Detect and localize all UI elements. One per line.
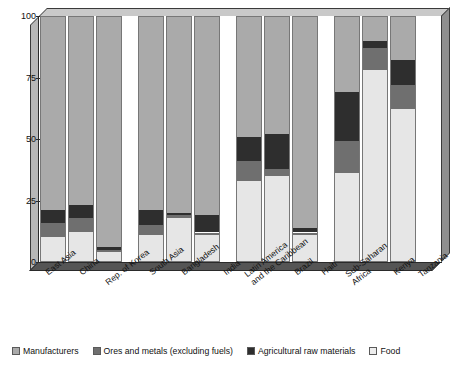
bar-segment-south-asia-agri <box>138 210 164 225</box>
bar-china <box>68 16 94 262</box>
bar-sub-saharan-africa <box>334 16 360 262</box>
bar-segment-sub-saharan-africa-manufacturers <box>334 16 360 92</box>
legend-swatch-icon <box>369 347 377 355</box>
x-axis-label-8: Haiti <box>320 260 339 278</box>
stacked-bar-chart: 1007550250 East AsiaChinaRep. of KoreaSo… <box>0 0 464 365</box>
y-axis-tick-100: 100 <box>0 16 36 25</box>
legend-item-manufacturers[interactable]: Manufacturers <box>12 346 79 356</box>
bar-segment-brazil-agri <box>264 134 290 168</box>
legend-label: Agricultural raw materials <box>258 346 356 356</box>
bar-segment-brazil-ores <box>264 169 290 176</box>
y-axis-tick-25: 25 <box>0 201 36 210</box>
legend-label: Ores and metals (excluding fuels) <box>104 346 233 356</box>
chart-legend: ManufacturersOres and metals (excluding … <box>12 342 464 360</box>
bar-segment-india-manufacturers <box>194 16 220 215</box>
bar-segment-rep-of-korea-manufacturers <box>96 16 122 247</box>
bar-bangladesh <box>166 16 192 262</box>
legend-item-food[interactable]: Food <box>369 346 400 356</box>
bar-segment-latin-america-agri <box>236 137 262 162</box>
bar-east-asia <box>40 16 66 262</box>
bar-segment-brazil-manufacturers <box>264 16 290 134</box>
bar-segment-east-asia-agri <box>40 210 66 222</box>
x-axis: East AsiaChinaRep. of KoreaSouth AsiaBan… <box>0 262 464 337</box>
bar-segment-bangladesh-agri <box>166 213 192 215</box>
bar-segment-china-manufacturers <box>68 16 94 205</box>
legend-item-ores[interactable]: Ores and metals (excluding fuels) <box>93 346 233 356</box>
x-axis-label-line: India <box>222 259 243 278</box>
bar-segment-latin-america-manufacturers <box>236 16 262 137</box>
legend-swatch-icon <box>247 347 255 355</box>
bar-segment-kenya-manufacturers <box>362 16 388 41</box>
bar-segment-india-agri <box>194 215 220 232</box>
bar-brazil <box>264 16 290 262</box>
bar-segment-kenya-agri <box>362 41 388 48</box>
bar-segment-rep-of-korea-food <box>96 252 122 262</box>
x-axis-label-line: Haiti <box>320 260 339 278</box>
bar-segment-tanzania-agri <box>390 60 416 85</box>
bar-segment-china-agri <box>68 205 94 217</box>
bar-segment-haiti-manufacturers <box>292 16 318 228</box>
bar-segment-east-asia-manufacturers <box>40 16 66 210</box>
bar-segment-latin-america-ores <box>236 161 262 181</box>
bar-segment-kenya-food <box>362 70 388 262</box>
legend-item-agri[interactable]: Agricultural raw materials <box>247 346 356 356</box>
bar-india <box>194 16 220 262</box>
y-axis-tick-50: 50 <box>0 139 36 148</box>
bar-segment-tanzania-manufacturers <box>390 16 416 60</box>
bar-segment-rep-of-korea-agri <box>96 247 122 249</box>
bar-segment-south-asia-manufacturers <box>138 16 164 210</box>
bar-haiti <box>292 16 318 262</box>
bar-segment-sub-saharan-africa-ores <box>334 141 360 173</box>
legend-label: Food <box>380 346 400 356</box>
bar-segment-tanzania-food <box>390 109 416 262</box>
bar-segment-sub-saharan-africa-agri <box>334 92 360 141</box>
bar-segment-tanzania-ores <box>390 85 416 110</box>
bar-rep-of-korea <box>96 16 122 262</box>
bar-segment-east-asia-ores <box>40 223 66 238</box>
y-axis-tick-75: 75 <box>0 78 36 87</box>
bar-kenya <box>362 16 388 262</box>
bar-segment-india-ores <box>194 233 220 235</box>
bar-segment-latin-america-food <box>236 181 262 262</box>
bar-segment-sub-saharan-africa-food <box>334 173 360 262</box>
legend-label: Manufacturers <box>23 346 79 356</box>
legend-swatch-icon <box>12 347 20 355</box>
x-axis-label-5: India <box>222 259 243 278</box>
legend-swatch-icon <box>93 347 101 355</box>
bar-tanzania <box>390 16 416 262</box>
bar-segment-south-asia-ores <box>138 225 164 235</box>
bar-south-asia <box>138 16 164 262</box>
bar-segment-bangladesh-ores <box>166 215 192 217</box>
bar-segment-rep-of-korea-ores <box>96 250 122 252</box>
bar-latin-america <box>236 16 262 262</box>
chart-right-panel <box>441 7 450 262</box>
bar-segment-bangladesh-manufacturers <box>166 16 192 213</box>
bar-segment-kenya-ores <box>362 48 388 70</box>
bar-segment-china-ores <box>68 218 94 233</box>
